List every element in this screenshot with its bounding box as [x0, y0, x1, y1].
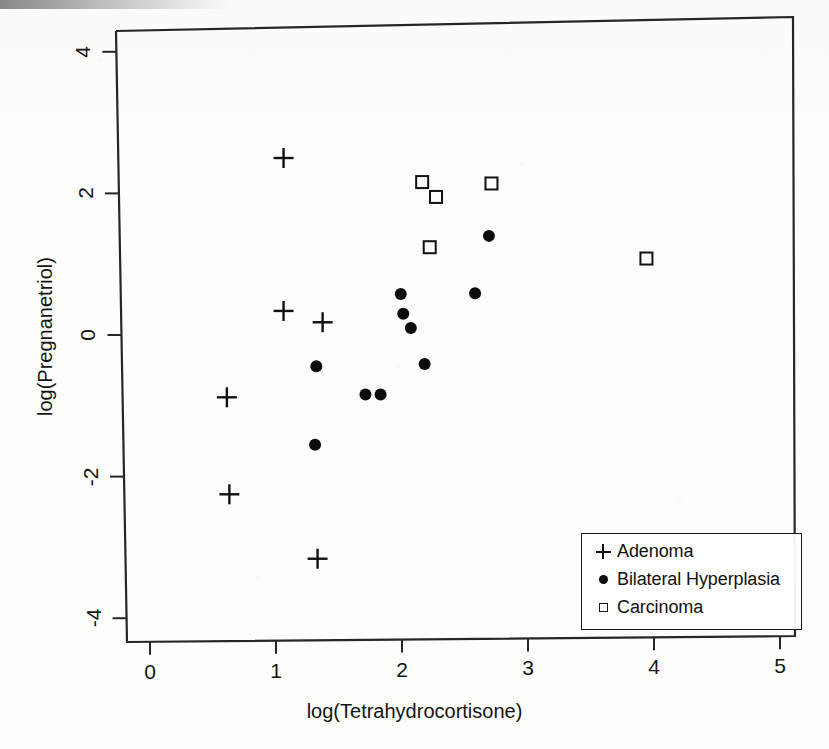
data-point-open-square	[640, 253, 652, 265]
data-point-plus	[217, 387, 237, 407]
legend-item-carcinoma: Carcinoma	[592, 594, 703, 621]
y-tick-label: 2	[74, 188, 98, 200]
y-tick-label: -2	[79, 467, 103, 486]
x-tick-label: 1	[270, 659, 282, 683]
data-point-filled-circle	[395, 288, 407, 300]
data-point-open-square	[430, 191, 442, 203]
chart-page: 012345 -4-2024 log(Tetrahydrocortisone) …	[0, 0, 829, 749]
x-tick-label: 5	[774, 654, 786, 678]
data-point-filled-circle	[405, 322, 417, 334]
data-point-filled-circle	[419, 358, 431, 370]
y-tick-label: 0	[76, 329, 100, 341]
legend-item-label: Adenoma	[617, 541, 693, 562]
series-bilateral-hyperplasia	[309, 230, 495, 451]
y-tick-label: 4	[71, 46, 95, 58]
data-point-open-square	[485, 177, 497, 189]
data-point-filled-circle	[309, 439, 321, 451]
legend-item-label: Carcinoma	[617, 597, 703, 618]
open-square-icon	[592, 603, 614, 612]
data-point-filled-circle	[469, 287, 481, 299]
x-axis-title: log(Tetrahydrocortisone)	[0, 700, 829, 723]
data-point-filled-circle	[310, 360, 322, 372]
data-point-plus	[308, 549, 328, 569]
scatter-plot-canvas	[0, 0, 829, 749]
data-point-filled-circle	[359, 388, 371, 400]
data-point-plus	[313, 312, 333, 332]
y-tick-label: -4	[82, 609, 106, 628]
data-point-open-square	[416, 176, 428, 188]
series-adenoma	[217, 148, 333, 569]
data-point-plus	[274, 301, 294, 321]
legend: Adenoma Bilateral Hyperplasia Carcinoma	[581, 533, 802, 630]
x-tick-label: 0	[144, 660, 156, 684]
data-point-filled-circle	[397, 308, 409, 320]
y-axis-title: log(Pregnanetriol)	[34, 207, 57, 467]
legend-item-label: Bilateral Hyperplasia	[617, 569, 780, 590]
series-carcinoma	[416, 176, 652, 264]
legend-item-adenoma: Adenoma	[592, 538, 693, 565]
data-point-filled-circle	[375, 388, 387, 400]
data-point-open-square	[424, 241, 436, 253]
filled-circle-icon	[592, 575, 614, 584]
data-point-plus	[219, 484, 239, 504]
data-point-filled-circle	[483, 230, 495, 242]
x-tick-label: 2	[396, 658, 408, 682]
data-point-plus	[274, 148, 294, 168]
y-axis-ticks	[102, 52, 126, 618]
x-tick-label: 3	[522, 656, 534, 680]
x-tick-label: 4	[648, 655, 660, 679]
data-series-layer	[217, 148, 653, 569]
plus-icon	[592, 544, 614, 559]
legend-item-bilateral-hyperplasia: Bilateral Hyperplasia	[592, 566, 780, 593]
